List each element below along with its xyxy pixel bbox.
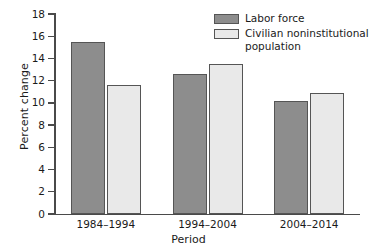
y-axis-tick-label: 2 xyxy=(1,186,45,197)
legend-swatch-labor-force xyxy=(214,14,239,24)
y-axis-tick-mark xyxy=(48,80,54,81)
bar xyxy=(107,85,141,214)
legend-item-labor-force: Labor force xyxy=(214,12,377,25)
y-axis-tick-mark xyxy=(48,36,54,37)
y-axis-tick-label: 4 xyxy=(1,164,45,175)
bar xyxy=(173,74,207,214)
y-axis-tick-label: 8 xyxy=(1,120,45,131)
y-axis-tick-mark xyxy=(48,102,54,103)
y-axis-tick-label: 6 xyxy=(1,142,45,153)
legend-swatch-civilian-noninstitutional-population xyxy=(214,29,239,39)
x-axis-category-label: 1984–1994 xyxy=(55,218,157,230)
y-axis-tick-label: 14 xyxy=(1,53,45,64)
x-axis-category-label: 1994–2004 xyxy=(157,218,259,230)
chart-legend: Labor force Civilian noninstitutional po… xyxy=(214,12,377,55)
bar xyxy=(274,101,308,214)
y-axis-tick-label: 0 xyxy=(1,209,45,220)
clipped-title-remnant xyxy=(118,0,268,2)
y-axis-tick-mark xyxy=(48,124,54,125)
y-axis-tick-label: 18 xyxy=(1,9,45,20)
y-axis-tick-label: 10 xyxy=(1,97,45,108)
legend-label-civilian-noninstitutional-population: Civilian noninstitutional population xyxy=(245,27,377,53)
y-axis-tick-label: 16 xyxy=(1,31,45,42)
x-axis-title: Period xyxy=(0,233,377,246)
bar xyxy=(71,42,105,214)
y-axis-tick-mark xyxy=(48,191,54,192)
y-axis-tick-mark xyxy=(48,213,54,214)
y-axis-tick-mark xyxy=(48,58,54,59)
y-axis-tick-mark xyxy=(48,13,54,14)
bar-chart: Percent change 181614121086420 1984–1994… xyxy=(0,0,377,249)
x-axis-category-label: 2004–2014 xyxy=(258,218,360,230)
y-axis-tick-mark xyxy=(48,147,54,148)
legend-label-labor-force: Labor force xyxy=(245,12,304,25)
y-axis-tick-label: 12 xyxy=(1,75,45,86)
legend-item-civilian-noninstitutional-population: Civilian noninstitutional population xyxy=(214,27,377,53)
bar xyxy=(209,64,243,214)
y-axis-tick-mark xyxy=(48,169,54,170)
bar xyxy=(310,93,344,214)
